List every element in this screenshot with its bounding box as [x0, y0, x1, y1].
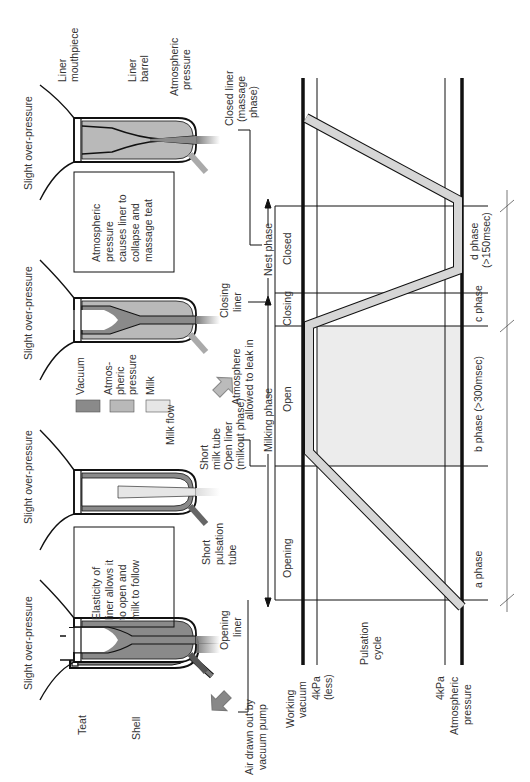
milk-tube-label-1: Short — [198, 445, 210, 470]
open-liner-label-1: Open liner — [222, 421, 234, 470]
air-out-arrow-icon — [204, 687, 235, 718]
a-phase-label: a phase — [472, 550, 484, 588]
liner-state-open: Open — [281, 386, 293, 412]
pulsation-tube-label-3: tube — [226, 544, 238, 565]
legend-atmospheric-label-2: pheric — [114, 366, 126, 395]
4kpa-label: 4kPa — [434, 676, 446, 700]
milking-phase-label: Milking phase — [262, 388, 274, 452]
over-pressure-label-2: Slight over-pressure — [22, 430, 34, 524]
c-phase-label: c phase — [472, 285, 484, 322]
air-drawn-label-1: Air drawn out by — [243, 698, 255, 775]
open-phase-fill — [317, 326, 462, 466]
over-pressure-label-4: Slight over-pressure — [22, 96, 34, 190]
cup-closing — [66, 298, 220, 352]
liner-barrel-label-1: Liner — [126, 58, 138, 82]
liner-state-opening: Opening — [281, 538, 293, 578]
atmosphere-leak-label-2: allowed to leak in — [243, 339, 255, 420]
elasticity-text-3: to open and — [116, 564, 128, 620]
atm-box-text-5: massage teat — [142, 199, 154, 262]
closing-liner-label-1: Closing — [218, 283, 230, 318]
legend-swatch-atmospheric — [110, 400, 134, 412]
liner-state-closing: Closing — [281, 291, 293, 326]
atmospheric-pressure-axis-label-2: pressure — [461, 684, 473, 725]
pulsation-tube-label-1: Short — [200, 540, 212, 565]
elasticity-text-1: Elasticity of — [90, 567, 102, 620]
closed-liner-label-1: Closed liner — [223, 70, 235, 126]
closing-liner-label-2: liner — [231, 292, 243, 312]
shell-label: Shell — [130, 717, 142, 740]
4kpa-less-label-1: 4kPa — [310, 676, 322, 700]
liner-mouthpiece-label-1: Liner — [56, 58, 68, 82]
pulsation-cycle-label-1: Pulsation — [358, 622, 370, 665]
liner-state-closed: Closed — [281, 232, 293, 265]
air-drawn-label-2: vacuum pump — [256, 704, 268, 770]
milking-pulsation-diagram: Slight over-pressure Slight over-pressur… — [0, 0, 530, 782]
liner-barrel-label-2: barrel — [138, 55, 150, 82]
cup-open — [74, 470, 220, 524]
legend-atmospheric-label-1: Atmos- — [102, 361, 114, 395]
closed-liner-label-2: (massage — [235, 76, 247, 122]
d-phase-label-1: d phase — [468, 222, 480, 260]
pulsation-tube-label-2: pulsation — [213, 523, 225, 565]
atm-box-text-4: collapse and — [129, 203, 141, 262]
cup-closed — [74, 118, 220, 172]
pulsation-cycle-label-2: cycle — [371, 636, 383, 660]
opening-liner-label-2: liner — [231, 617, 243, 637]
atm-box-text-2: pressure — [103, 221, 115, 262]
atmospheric-pressure-label-2: pressure — [180, 49, 192, 90]
legend-atmospheric-label-3: pressure — [126, 354, 138, 395]
d-phase-label-2: (>150msec) — [480, 212, 492, 268]
legend-swatch-vacuum — [76, 400, 100, 412]
teat-label: Teat — [76, 715, 88, 735]
atmosphere-leak-label-1: Atmosphere — [230, 348, 242, 405]
legend-milk-label: Milk — [144, 376, 156, 395]
atm-box-text-3: causes liner to — [116, 194, 128, 262]
b-phase-label: b phase (>300msec) — [472, 356, 484, 452]
4kpa-less-label-2: (less) — [322, 674, 334, 700]
elasticity-text-4: milk to follow — [129, 559, 141, 620]
over-pressure-label-1: Slight over-pressure — [22, 596, 34, 690]
legend-vacuum-label: Vacuum — [74, 357, 86, 395]
atmospheric-pressure-label-1: Atmospheric — [168, 38, 180, 96]
atm-box-text-1: Atmospheric — [90, 204, 102, 262]
closed-liner-label-3: phase) — [247, 86, 259, 118]
milk-flow-label: Milk flow — [164, 404, 176, 445]
udder-outlines — [40, 85, 74, 700]
working-vacuum-label-2: vacuum — [296, 681, 308, 718]
liner-mouthpiece-label-2: mouthpiece — [68, 28, 80, 82]
milk-tube-label-2: milk tube — [210, 428, 222, 470]
opening-liner-label-1: Opening — [218, 610, 230, 650]
elasticity-text-2: liner allows it — [103, 560, 115, 620]
working-vacuum-label-1: Working — [284, 690, 296, 728]
atmospheric-pressure-axis-label-1: Atmospheric — [448, 677, 460, 735]
over-pressure-label-3: Slight over-pressure — [22, 266, 34, 360]
dimension-line — [500, 190, 514, 612]
nest-phase-label: Nest phase — [262, 223, 274, 276]
